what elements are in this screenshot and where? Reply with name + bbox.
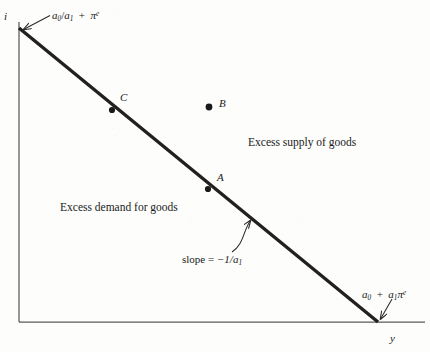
slope-annotation-label: slope = −1/a1: [182, 254, 242, 267]
slope-annotation-prefix: slope =: [182, 253, 217, 265]
point-label-C: C: [120, 92, 127, 103]
point-dot-C: [109, 107, 115, 113]
region-label-excess-supply: Excess supply of goods: [248, 137, 356, 149]
vertical-intercept-arrow: [24, 16, 51, 30]
equilibrium-line: [19, 28, 378, 322]
point-label-A: A: [217, 172, 224, 183]
vertical-intercept-label: a0/a1 + πe: [52, 10, 99, 23]
horizontal-intercept-arrow: [381, 299, 393, 319]
vertical-axis-label: i: [4, 11, 7, 22]
horizontal-intercept-label: a0 + a1πe: [362, 289, 406, 302]
horizontal-axis-label: y: [390, 333, 395, 344]
figure-canvas: i y a0/a1 + πe a0 + a1πe slope = −1/a1 E…: [0, 0, 430, 352]
point-dot-B: [206, 104, 213, 111]
region-label-excess-demand: Excess demand for goods: [60, 202, 178, 214]
point-dot-A: [205, 186, 211, 192]
point-label-B: B: [219, 98, 226, 109]
slope-annotation-arrow: [232, 221, 251, 253]
